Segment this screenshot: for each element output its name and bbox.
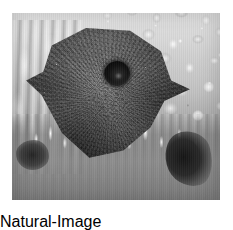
shadow-crevice-secondary (16, 140, 49, 170)
image-root: Close-up grayscale photograph of a sea s… (0, 0, 233, 213)
photograph (12, 13, 220, 200)
madreporite-highlight (115, 73, 122, 79)
madreporite-pore (104, 61, 130, 86)
photo-frame (12, 13, 220, 200)
